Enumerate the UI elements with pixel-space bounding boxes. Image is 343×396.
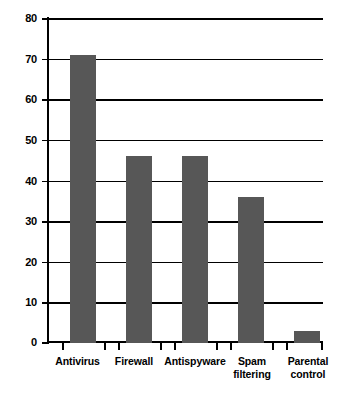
y-tick-10: [42, 302, 47, 304]
y-axis-label-50: 50: [25, 135, 37, 146]
y-axis-label-40: 40: [25, 176, 37, 187]
x-axis-label-parental-control: Parental control: [272, 355, 343, 380]
x-tick-1: [62, 343, 64, 350]
y-axis-label-0: 0: [31, 337, 37, 348]
y-axis-label-60: 60: [25, 94, 37, 105]
bar-chart: 80 70 60 50 40 30 20 10 0 Antivirus Fire…: [0, 0, 343, 396]
x-tick-4: [160, 343, 162, 350]
x-tick-9: [286, 343, 288, 350]
x-tick-6: [216, 343, 218, 350]
bar-antispyware: [182, 156, 208, 343]
x-tick-8: [272, 343, 274, 350]
bar-spam-filtering: [238, 197, 264, 343]
y-axis-label-30: 30: [25, 216, 37, 227]
y-tick-20: [42, 262, 47, 264]
bar-parental-control: [294, 331, 320, 343]
x-tick-3: [118, 343, 120, 350]
x-tick-7: [230, 343, 232, 350]
y-tick-80: [42, 18, 47, 20]
bar-antivirus: [70, 55, 96, 343]
y-tick-50: [42, 140, 47, 142]
y-axis-label-70: 70: [25, 54, 37, 65]
x-tick-2: [104, 343, 106, 350]
y-tick-40: [42, 181, 47, 183]
y-tick-0: [42, 342, 47, 344]
y-tick-70: [42, 59, 47, 61]
gridline-80: [48, 18, 323, 20]
plot-area: [48, 18, 323, 343]
bar-firewall: [126, 156, 152, 343]
y-axis-label-10: 10: [25, 297, 37, 308]
y-axis-label-80: 80: [25, 13, 37, 24]
y-tick-60: [42, 99, 47, 101]
y-tick-30: [42, 221, 47, 223]
x-tick-10: [321, 343, 323, 350]
y-axis-label-20: 20: [25, 257, 37, 268]
x-tick-5: [174, 343, 176, 350]
